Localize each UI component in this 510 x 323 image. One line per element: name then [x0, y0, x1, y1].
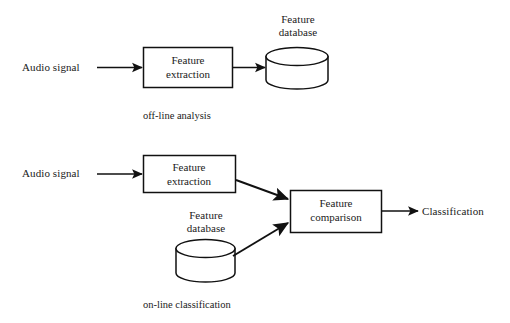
offline-feature-extraction-line1: Feature [143, 53, 233, 67]
online-feature-database-line1: Feature [176, 209, 236, 222]
offline-feature-database-line1: Feature [268, 13, 328, 26]
online-feature-extraction-line1: Feature [143, 160, 235, 174]
online-feature-comparison-line2: comparison [290, 210, 382, 224]
offline-feature-extraction-label: Feature extraction [143, 53, 233, 82]
block-diagram-canvas: Audio signal Feature extraction Feature … [0, 0, 510, 323]
online-feature-extraction-line2: extraction [143, 174, 235, 188]
diagram-vector-layer [0, 0, 510, 323]
online-feature-database-cylinder[interactable] [176, 240, 235, 283]
online-feature-database-line2: database [176, 222, 236, 235]
offline-stage-caption: off-line analysis [143, 110, 211, 121]
offline-input-label: Audio signal [22, 61, 80, 74]
online-extraction-to-comparison-arrow [236, 180, 288, 199]
offline-feature-database-label: Feature database [268, 13, 328, 39]
offline-feature-extraction-line2: extraction [143, 67, 233, 81]
online-feature-extraction-label: Feature extraction [143, 160, 235, 189]
online-input-label: Audio signal [22, 167, 80, 180]
online-stage-caption: on-line classification [143, 299, 231, 310]
online-feature-comparison-line1: Feature [290, 196, 382, 210]
online-feature-comparison-label: Feature comparison [290, 196, 382, 225]
offline-feature-database-line2: database [268, 26, 328, 39]
online-database-to-comparison-arrow [233, 223, 288, 256]
offline-feature-database-cylinder[interactable] [266, 48, 328, 90]
online-output-label: Classification [422, 205, 484, 218]
online-feature-database-label: Feature database [176, 209, 236, 235]
